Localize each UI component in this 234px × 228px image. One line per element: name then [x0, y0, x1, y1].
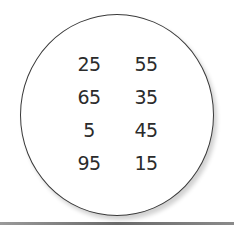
number-left-1: 25: [69, 53, 109, 75]
number-left-2: 65: [69, 86, 109, 108]
number-right-2: 35: [126, 86, 166, 108]
number-left-4: 95: [69, 152, 109, 174]
number-circle: [20, 14, 214, 216]
number-right-4: 15: [126, 152, 166, 174]
number-right-3: 45: [126, 119, 166, 141]
number-right-1: 55: [126, 53, 166, 75]
bottom-divider: [0, 222, 234, 225]
number-left-3: 5: [69, 119, 109, 141]
